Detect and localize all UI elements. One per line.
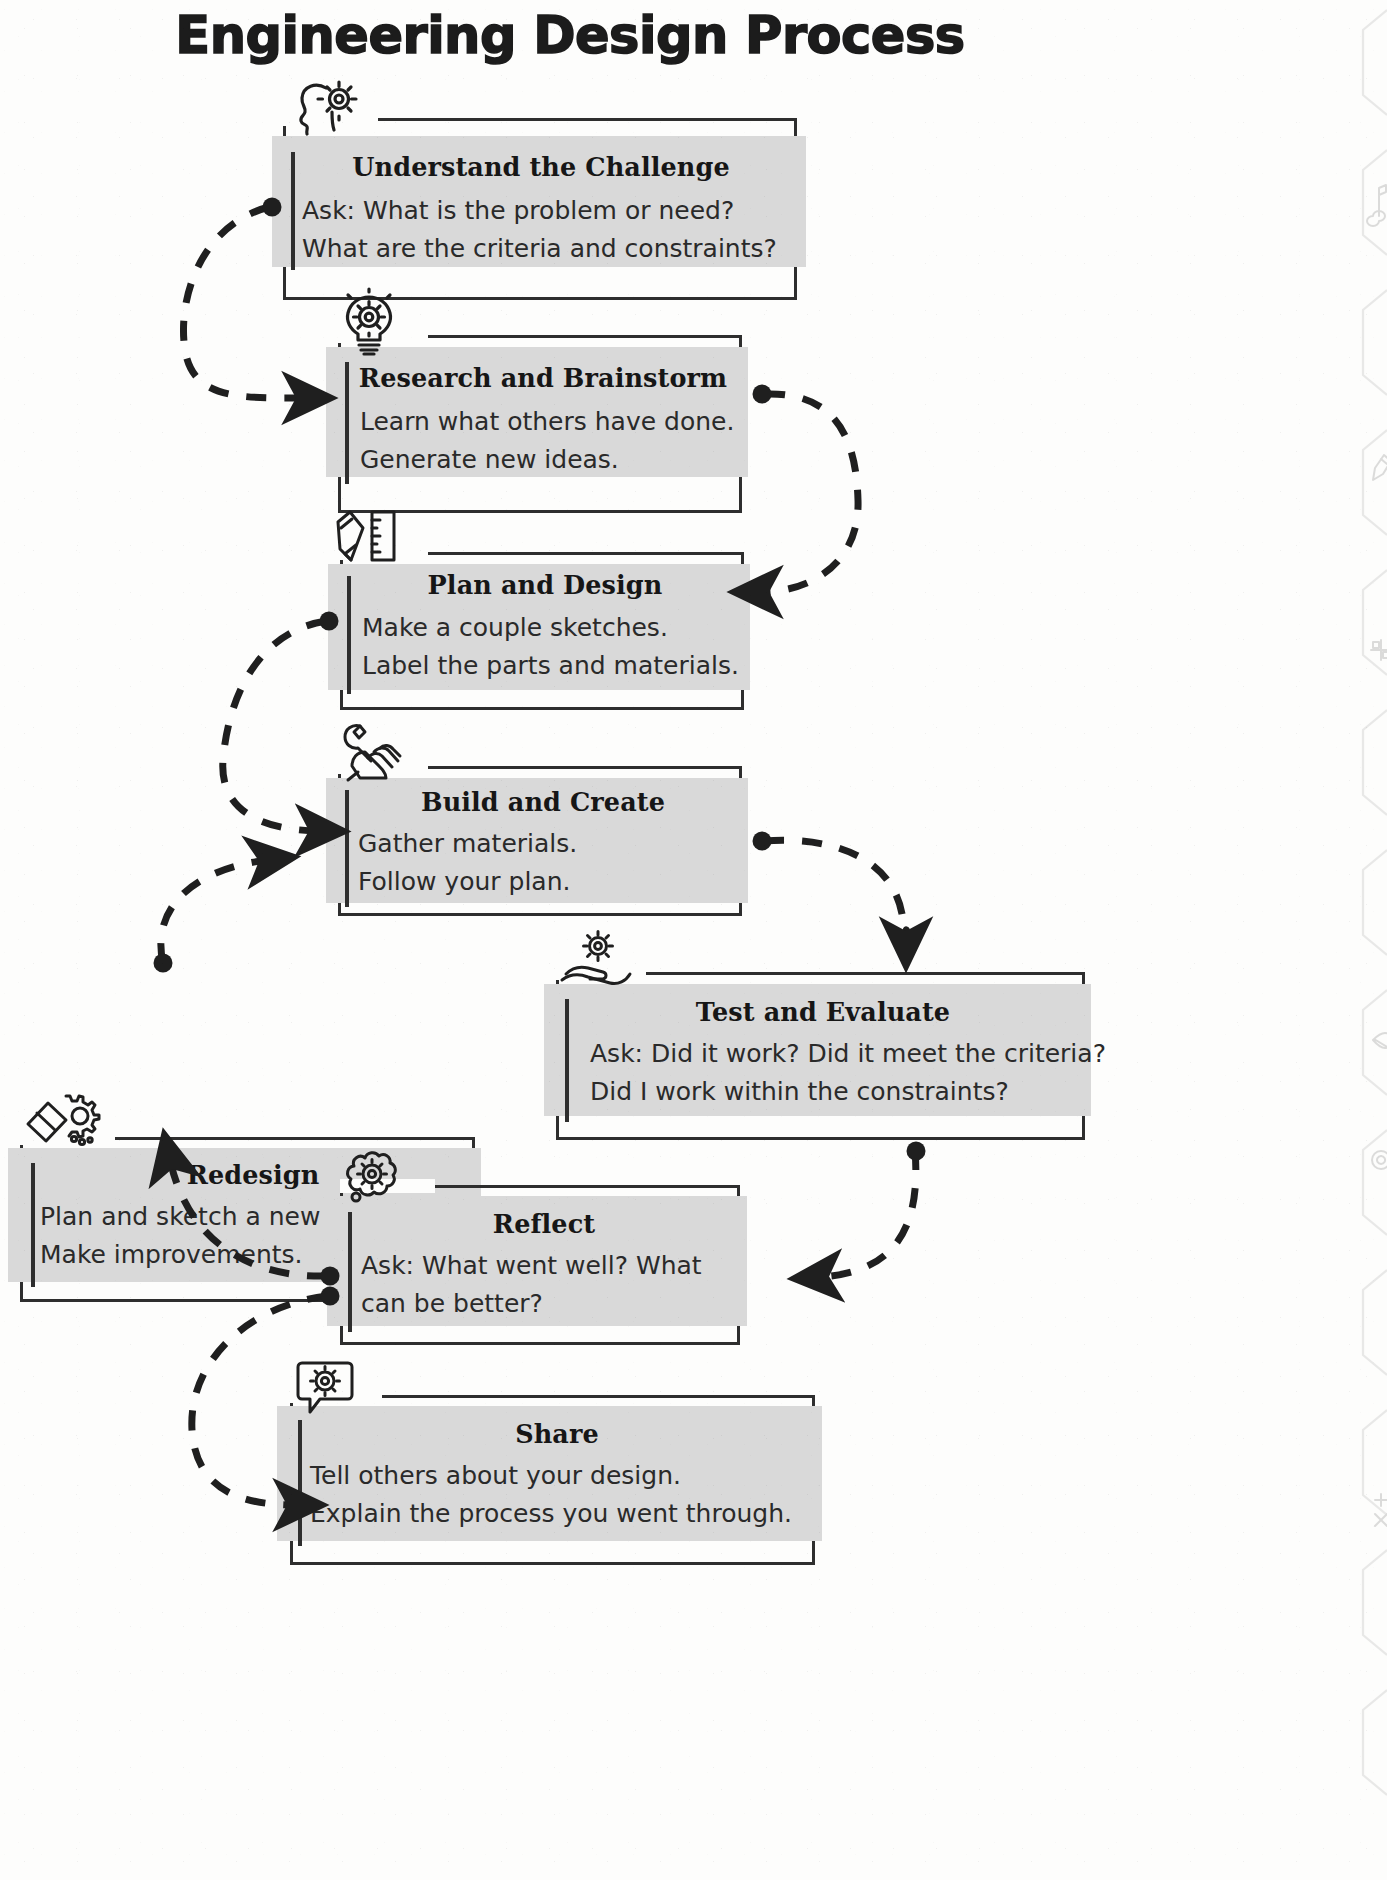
- arrow-research-to-plan: [760, 394, 858, 592]
- card-body: Ask: Did it work? Did it meet the criter…: [590, 1035, 1110, 1111]
- pencil-ruler-icon: [334, 508, 402, 568]
- card-title: Share: [298, 1419, 816, 1449]
- card-title: Plan and Design: [347, 570, 743, 600]
- card-body: Gather materials. Follow your plan.: [358, 825, 758, 901]
- card-title: Understand the Challenge: [291, 152, 791, 182]
- card-body: Learn what others have done. Generate ne…: [360, 403, 760, 479]
- hand-holding-gear-icon: [558, 930, 638, 992]
- arrow-test-to-reflect: [820, 1150, 916, 1277]
- card-body: Ask: What is the problem or need? What a…: [302, 192, 802, 268]
- page-edge-hex-decoration: [1267, 0, 1387, 1880]
- card-title: Research and Brainstorm: [345, 363, 741, 393]
- poster-canvas: Engineering Design Process: [0, 0, 1387, 1880]
- card-title: Reflect: [348, 1209, 740, 1239]
- eraser-gear-icon: [22, 1090, 102, 1152]
- card-body: Make a couple sketches. Label the parts …: [362, 609, 782, 685]
- arrow-build-to-test: [764, 840, 906, 940]
- card-title: Build and Create: [345, 787, 741, 817]
- card-title: Test and Evaluate: [565, 997, 1081, 1027]
- head-gear-icon: [293, 72, 365, 138]
- card-body: Tell others about your design. Explain t…: [310, 1457, 840, 1533]
- page-title: Engineering Design Process: [0, 6, 1140, 65]
- hand-wrench-icon: [338, 722, 410, 784]
- arrow-redesign-to-build: [161, 860, 268, 963]
- arrow-plan-to-build: [223, 621, 326, 831]
- lightbulb-gear-icon: [340, 290, 400, 356]
- speech-bubble-gear-icon: [292, 1355, 360, 1417]
- thought-bubble-gear-icon: [334, 1148, 406, 1212]
- card-body: Ask: What went well? What can be better?: [361, 1247, 761, 1323]
